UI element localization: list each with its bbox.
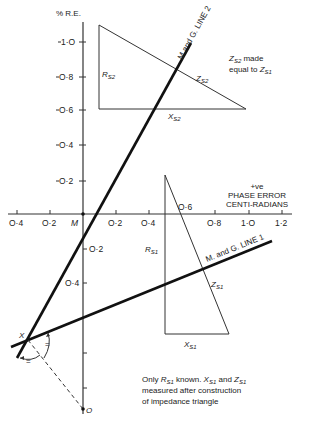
y-tick-neg-0-2: O·2	[89, 244, 103, 254]
x-axis-title-sign: +ve	[250, 182, 264, 191]
x-tick-neg-0-4: O·4	[9, 218, 23, 228]
y-tick-0-6: O·6	[59, 105, 73, 115]
r-s2-label: RS2	[102, 70, 116, 80]
equal-mark-lower: =	[26, 357, 31, 366]
y-tick-neg-0-4: O·4	[65, 278, 79, 288]
x-tick-0-6: O·6	[178, 202, 192, 212]
impedance-construction-diagram: % R.E. 1·O O·8 O·6 O·4 O·2 O·2 O·4 O·4 O…	[0, 0, 314, 421]
x-tick-0-4: O·4	[141, 218, 155, 228]
dashed-x-to-o	[28, 340, 83, 409]
origin-label: M	[71, 218, 79, 228]
x-tick-0-2: O·2	[108, 218, 122, 228]
note-impedance-triangle: of impedance triangle	[142, 397, 219, 406]
y-tick-1-0: 1·O	[61, 37, 76, 47]
mg-line-2-label: M.and G. LINE 2	[176, 4, 213, 61]
point-o-label: O	[86, 406, 92, 415]
equal-mark-upper: =	[45, 340, 50, 349]
y-tick-0-8: O·8	[59, 72, 73, 82]
upper-impedance-triangle	[99, 25, 246, 109]
point-x-label: X	[18, 331, 25, 340]
x-axis-title-line2: CENTI-RADIANS	[226, 200, 288, 209]
x-tick-1-0: 1·O	[241, 218, 256, 228]
origin-point	[81, 212, 85, 216]
y-tick-0-2: O·2	[59, 176, 73, 186]
x-tick-0-8: O·8	[207, 218, 221, 228]
note-only-rs1-known: Only RS1 known. XS1 and ZS1	[142, 375, 246, 385]
y-axis-label: % R.E.	[56, 9, 81, 18]
r-s1-label: RS1	[145, 245, 158, 255]
x-s1-label: XS1	[183, 340, 197, 350]
mg-line-1	[11, 241, 272, 347]
y-tick-0-4: O·4	[59, 140, 73, 150]
note-equal-to-z-s1: equal to ZS1	[229, 65, 272, 75]
x-tick-1-2: 1·2	[275, 218, 288, 228]
arrowhead-2	[20, 356, 24, 360]
note-z-s2-equal: ZS2 made	[228, 54, 264, 64]
x-s2-label: XS2	[167, 112, 181, 122]
z-s1-label: ZS1	[210, 280, 223, 290]
point-o	[81, 407, 85, 411]
x-tick-neg-0-2: O·2	[42, 218, 56, 228]
x-axis-title-line1: PHASE ERROR	[228, 191, 286, 200]
z-s2-label: ZS2	[195, 74, 209, 84]
note-measured-after: measured after construction	[142, 386, 241, 395]
